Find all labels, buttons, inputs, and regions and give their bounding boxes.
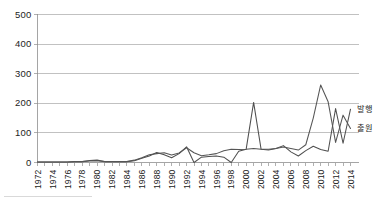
series-label-1: 발행 (357, 104, 374, 114)
x-axis-tick-label: 1972 (33, 169, 43, 189)
x-axis-tick-label: 1998 (226, 169, 236, 189)
x-axis-tick-label: 2002 (256, 169, 266, 189)
series-group (38, 85, 351, 163)
chart-canvas: 0100200300400500197219741976197819801982… (0, 0, 384, 202)
x-axis: 1972197419761978198019821984198619881990… (33, 163, 356, 190)
series-label-2: 출원 (357, 123, 374, 133)
x-axis-tick-label: 1988 (152, 169, 162, 189)
y-gridlines: 0100200300400500 (15, 9, 358, 168)
x-axis-tick-label: 2004 (271, 169, 281, 189)
axes (38, 14, 359, 163)
y-axis-tick-label: 200 (15, 97, 31, 108)
y-axis-tick-label: 0 (26, 157, 31, 168)
x-axis-tick-label: 1992 (182, 169, 192, 189)
series-line-1 (38, 102, 351, 162)
x-axis-tick-label: 1990 (167, 169, 177, 189)
y-axis-tick-label: 300 (15, 68, 31, 79)
line-chart: 0100200300400500197219741976197819801982… (0, 0, 384, 202)
y-axis-tick-label: 500 (15, 9, 31, 20)
x-axis-tick-label: 1982 (107, 169, 117, 189)
x-axis-tick-label: 1974 (48, 169, 58, 189)
x-axis-tick-label: 2008 (301, 169, 311, 189)
y-axis-tick-label: 100 (15, 127, 31, 138)
legend: 발행출원 (357, 104, 374, 133)
x-axis-tick-label: 1976 (63, 169, 73, 189)
series-line-2 (38, 85, 351, 162)
x-axis-tick-label: 1996 (212, 169, 222, 189)
y-axis-tick-label: 400 (15, 38, 31, 49)
x-axis-tick-label: 2014 (346, 169, 356, 189)
x-axis-tick-label: 1994 (197, 169, 207, 189)
x-axis-tick-label: 1986 (137, 169, 147, 189)
x-axis-tick-label: 1978 (77, 169, 87, 189)
x-axis-tick-label: 2006 (286, 169, 296, 189)
x-axis-tick-label: 2012 (331, 169, 341, 189)
x-axis-tick-label: 1980 (92, 169, 102, 189)
x-axis-tick-label: 2000 (241, 169, 251, 189)
x-axis-tick-label: 2010 (316, 169, 326, 189)
x-axis-tick-label: 1984 (122, 169, 132, 189)
